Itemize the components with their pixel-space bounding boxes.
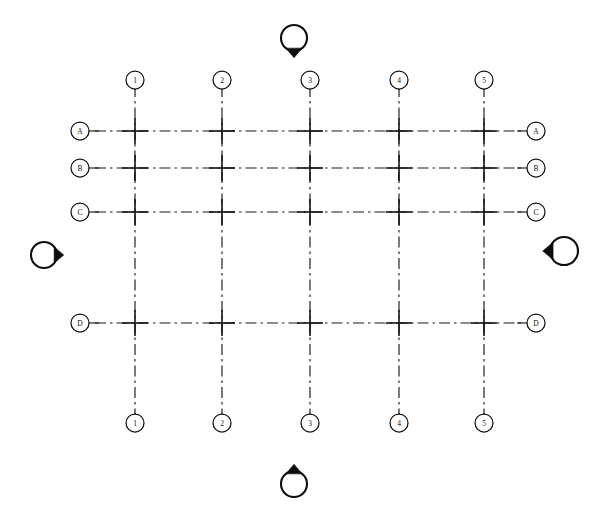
grid-bubble-label: B <box>533 164 538 173</box>
right-grid-bubble-B[interactable]: B <box>527 159 545 177</box>
grid-bubble-label: B <box>77 164 82 173</box>
section-marker-pointer-up <box>286 464 302 474</box>
right-grid-bubble-D[interactable]: D <box>527 314 545 332</box>
grid-bubble-label: 1 <box>133 419 137 428</box>
left-section-marker[interactable] <box>31 242 64 268</box>
section-marker-pointer-down <box>286 48 302 58</box>
grid-bubble-label: C <box>533 208 538 217</box>
section-marker-pointer-right <box>54 247 64 263</box>
grid-bubbles-layer: 1234512345ABCDABCD <box>71 71 545 432</box>
grid-bubble-label: 5 <box>482 419 486 428</box>
left-grid-bubble-C[interactable]: C <box>71 203 89 221</box>
section-marker-pointer-left <box>543 242 553 259</box>
left-grid-bubble-A[interactable]: A <box>71 122 89 140</box>
grid-bubble-label: 4 <box>397 419 401 428</box>
bottom-grid-bubble-1[interactable]: 1 <box>126 414 144 432</box>
grid-bubble-label: 2 <box>220 419 224 428</box>
grid-bubble-label: 5 <box>482 76 486 85</box>
bottom-grid-bubble-5[interactable]: 5 <box>475 414 493 432</box>
grid-bubble-label: 2 <box>220 76 224 85</box>
top-grid-bubble-3[interactable]: 3 <box>301 71 319 89</box>
horizontal-gridlines-layer <box>95 131 521 323</box>
right-grid-bubble-A[interactable]: A <box>527 122 545 140</box>
left-grid-bubble-D[interactable]: D <box>71 314 89 332</box>
grid-bubble-label: 1 <box>133 76 137 85</box>
section-marker-circle <box>281 471 307 497</box>
bubble-leaders-layer <box>89 89 527 414</box>
grid-bubble-label: D <box>77 319 83 328</box>
top-section-marker[interactable] <box>281 25 307 58</box>
bottom-grid-bubble-2[interactable]: 2 <box>213 414 231 432</box>
grid-bubble-label: 4 <box>397 76 401 85</box>
grid-plan-drawing: 1234512345ABCDABCD <box>0 0 595 517</box>
top-grid-bubble-5[interactable]: 5 <box>475 71 493 89</box>
grid-bubble-label: C <box>77 208 82 217</box>
left-grid-bubble-B[interactable]: B <box>71 159 89 177</box>
grid-bubble-label: A <box>77 127 83 136</box>
grid-bubble-label: 3 <box>308 76 312 85</box>
section-marker-circle <box>550 237 578 265</box>
grid-bubble-label: D <box>533 319 539 328</box>
top-grid-bubble-4[interactable]: 4 <box>390 71 408 89</box>
right-section-marker[interactable] <box>543 237 578 265</box>
grid-bubble-label: A <box>533 127 539 136</box>
section-marker-circle <box>281 25 307 51</box>
drawing-sheet: 1234512345ABCDABCD <box>0 0 595 517</box>
bottom-grid-bubble-4[interactable]: 4 <box>390 414 408 432</box>
grid-bubble-label: 3 <box>308 419 312 428</box>
bottom-section-marker[interactable] <box>281 464 307 497</box>
top-grid-bubble-2[interactable]: 2 <box>213 71 231 89</box>
top-grid-bubble-1[interactable]: 1 <box>126 71 144 89</box>
section-marker-circle <box>31 242 57 268</box>
bottom-grid-bubble-3[interactable]: 3 <box>301 414 319 432</box>
right-grid-bubble-C[interactable]: C <box>527 203 545 221</box>
